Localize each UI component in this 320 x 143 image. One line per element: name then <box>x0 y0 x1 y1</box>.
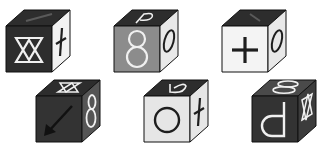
cube-6 <box>250 74 320 142</box>
cube-2-front-face <box>114 26 160 72</box>
cube-4 <box>34 74 106 142</box>
cube-1 <box>4 4 76 72</box>
cube-5 <box>142 74 214 142</box>
cube-5-front-face <box>144 96 190 142</box>
cube-2 <box>112 4 184 72</box>
cube-3 <box>220 4 292 72</box>
cube-1-front-face <box>6 26 52 72</box>
